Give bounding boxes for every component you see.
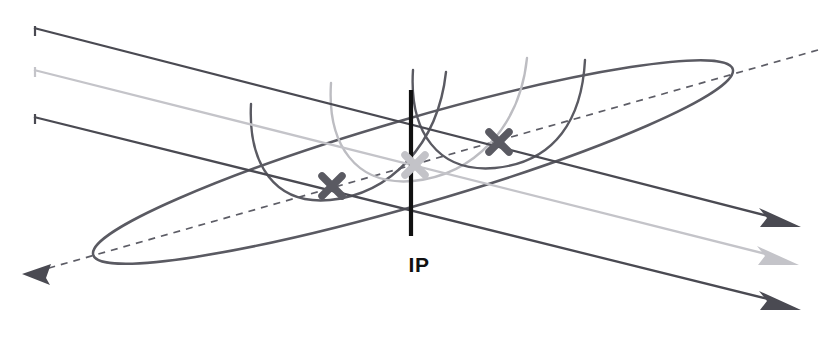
ip-label: IP [409, 253, 430, 276]
diagram-root: IP [0, 0, 830, 339]
beam-crossing-diagram: IP [0, 0, 830, 339]
